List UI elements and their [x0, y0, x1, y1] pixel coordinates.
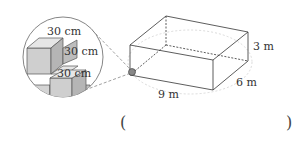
cube-label-bottom: 30 cm [57, 67, 92, 80]
cube-marker [129, 69, 136, 76]
answer-close-paren: ) [286, 113, 292, 132]
length-label: 9 m [158, 88, 179, 101]
guide-ellipse [128, 30, 252, 94]
cube-front [27, 48, 51, 74]
cube-label-middle: 30 cm [64, 45, 99, 58]
diagram: 30 cm 30 cm 30 cm 3 m 6 m 9 m [0, 0, 302, 145]
box [130, 16, 248, 90]
magnifier: 30 cm 30 cm 30 cm [20, 17, 103, 110]
height-label: 3 m [253, 40, 274, 53]
cube-label-top: 30 cm [47, 25, 82, 38]
answer-open-paren: ( [120, 113, 126, 132]
width-label: 6 m [236, 76, 257, 89]
